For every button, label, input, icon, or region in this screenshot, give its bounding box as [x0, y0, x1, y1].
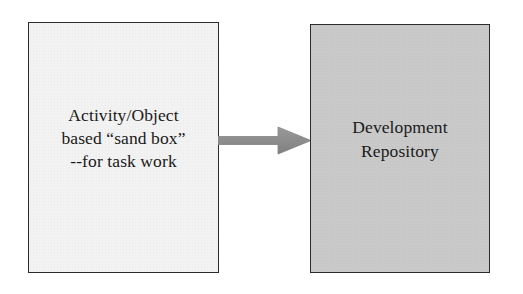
node-sandbox[interactable]: Activity/Object based “sand box” --for t… [28, 22, 219, 273]
arrow-sandbox-to-repository [218, 124, 312, 157]
node-sandbox-label: Activity/Object based “sand box” --for t… [61, 104, 185, 173]
node-repository[interactable]: Development Repository [310, 24, 490, 273]
block-arrow-icon [218, 124, 312, 157]
diagram-canvas: Activity/Object based “sand box” --for t… [0, 0, 523, 294]
node-repository-label: Development Repository [352, 116, 447, 162]
